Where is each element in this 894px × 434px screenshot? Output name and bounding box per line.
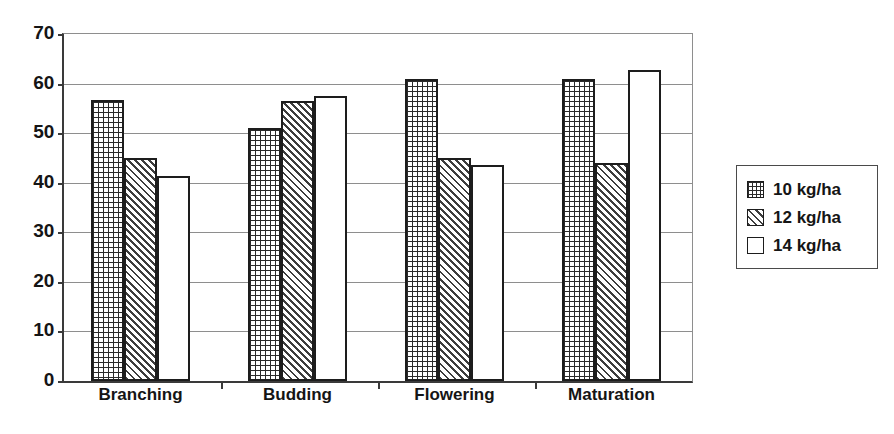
y-axis: 010203040506070: [8, 0, 54, 434]
legend-swatch-icon: [747, 237, 764, 254]
bar: [281, 101, 314, 381]
y-axis-tick: [58, 331, 64, 333]
y-axis-tick: [58, 183, 64, 185]
legend-item-label: 12 kg/ha: [773, 209, 841, 226]
bar: [248, 128, 281, 381]
x-axis-category-label: Budding: [219, 386, 376, 405]
bar: [471, 165, 504, 381]
y-axis-tick: [58, 232, 64, 234]
y-axis-tick-label: 20: [14, 271, 54, 290]
bar: [91, 100, 124, 381]
plot-area: [62, 33, 693, 383]
legend-item-label: 10 kg/ha: [773, 181, 841, 198]
bar: [314, 96, 347, 381]
legend-swatch-icon: [747, 209, 764, 226]
gridline: [64, 133, 692, 134]
y-axis-tick-label: 40: [14, 172, 54, 191]
chart-legend: 10 kg/ha12 kg/ha14 kg/ha: [736, 165, 878, 269]
y-axis-tick-label: 70: [14, 23, 54, 42]
legend-item[interactable]: 12 kg/ha: [747, 203, 865, 231]
y-axis-tick: [58, 133, 64, 135]
y-axis-tick-label: 30: [14, 221, 54, 240]
legend-item[interactable]: 10 kg/ha: [747, 175, 865, 203]
y-axis-tick-label: 60: [14, 73, 54, 92]
y-axis-tick: [58, 282, 64, 284]
legend-item-label: 14 kg/ha: [773, 237, 841, 254]
y-axis-tick: [58, 381, 64, 383]
bar-chart: 010203040506070 BranchingBuddingFlowerin…: [0, 0, 894, 434]
bar: [124, 158, 157, 381]
bar: [157, 176, 190, 381]
y-axis-tick-label: 10: [14, 320, 54, 339]
bar: [628, 70, 661, 381]
x-axis: BranchingBuddingFloweringMaturation: [62, 386, 690, 420]
legend-item[interactable]: 14 kg/ha: [747, 231, 865, 259]
bar: [562, 79, 595, 381]
gridline: [64, 84, 692, 85]
x-axis-category-label: Flowering: [376, 386, 533, 405]
y-axis-tick: [58, 84, 64, 86]
bar: [438, 158, 471, 381]
bar: [595, 163, 628, 381]
x-axis-category-label: Branching: [62, 386, 219, 405]
x-axis-category-label: Maturation: [533, 386, 690, 405]
y-axis-tick-label: 50: [14, 122, 54, 141]
legend-swatch-icon: [747, 181, 764, 198]
y-axis-tick: [58, 34, 64, 36]
y-axis-tick-label: 0: [14, 370, 54, 389]
bar: [405, 79, 438, 381]
